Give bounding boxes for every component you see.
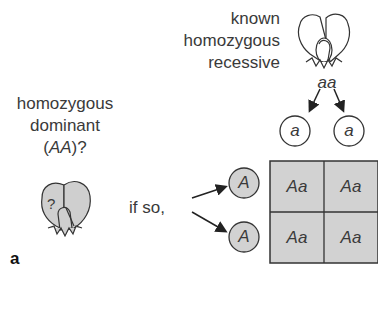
recessive-genotype: aa — [302, 72, 352, 94]
gamete-left-1: A — [229, 172, 259, 194]
punnett-cell: Aa — [324, 227, 378, 249]
gamete-left-2: A — [229, 226, 259, 248]
gamete-top-2: a — [334, 120, 364, 142]
punnett-cell: Aa — [270, 176, 324, 198]
gamete-top-1: a — [280, 120, 310, 142]
punnett-cell: Aa — [270, 227, 324, 249]
diagram-canvas — [0, 0, 378, 336]
recessive-flower-icon — [298, 14, 349, 68]
panel-label: a — [10, 248, 19, 270]
if-so-label: if so, — [129, 197, 165, 219]
unknown-mark: ? — [47, 193, 55, 215]
punnett-cell: Aa — [324, 176, 378, 198]
